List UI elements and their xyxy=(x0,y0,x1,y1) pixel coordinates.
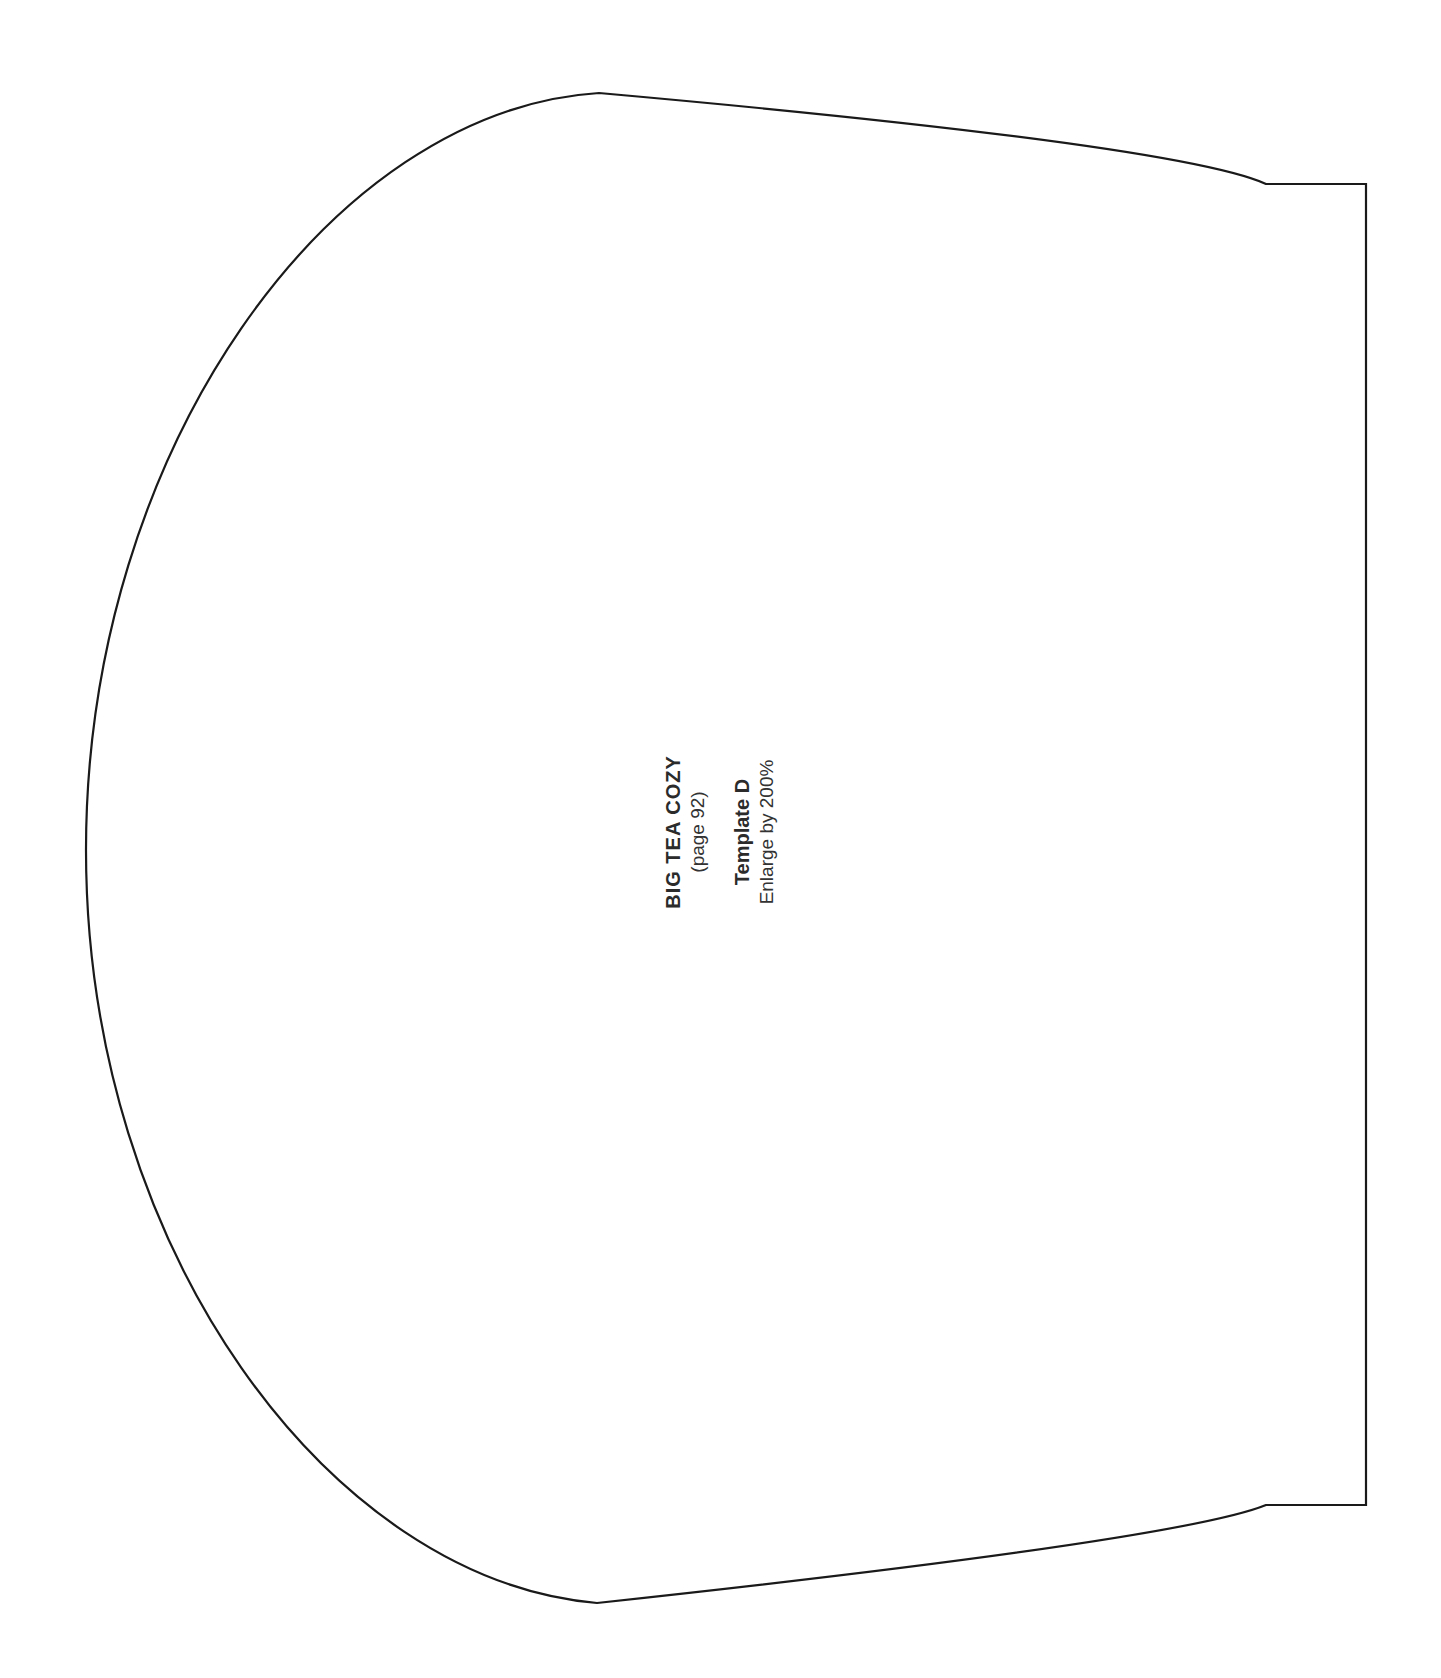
template-name: Template D xyxy=(730,779,755,885)
project-title: BIG TEA COZY xyxy=(661,755,686,908)
template-label-block: BIG TEA COZY (page 92) Template D Enlarg… xyxy=(661,755,779,908)
enlarge-instruction: Enlarge by 200% xyxy=(755,760,779,905)
page-reference: (page 92) xyxy=(686,791,710,872)
